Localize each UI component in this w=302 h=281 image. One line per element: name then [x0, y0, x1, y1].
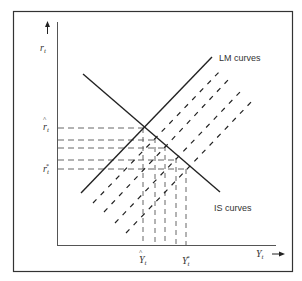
horizontal-guides [58, 128, 186, 169]
y-hat-label: Yt [139, 255, 147, 267]
is-lm-diagram: rt rt rt* Yt Yt* Yt LM curves IS curves [0, 0, 302, 281]
y-star-label: Yt* [182, 255, 190, 268]
frame [14, 12, 293, 272]
y-axis-arrow-icon [45, 21, 50, 34]
is-curves-label: IS curves [214, 204, 252, 213]
lm-curve-solid [81, 57, 212, 193]
y-axis-label: rt [40, 43, 46, 55]
vertical-guides [143, 128, 186, 245]
x-axis-arrow-icon [272, 252, 285, 257]
x-axis-label: Yt [256, 249, 264, 261]
lm-curves-label: LM curves [219, 54, 261, 63]
r-hat-label: rt [43, 122, 49, 134]
r-star-label: rt* [43, 163, 49, 176]
